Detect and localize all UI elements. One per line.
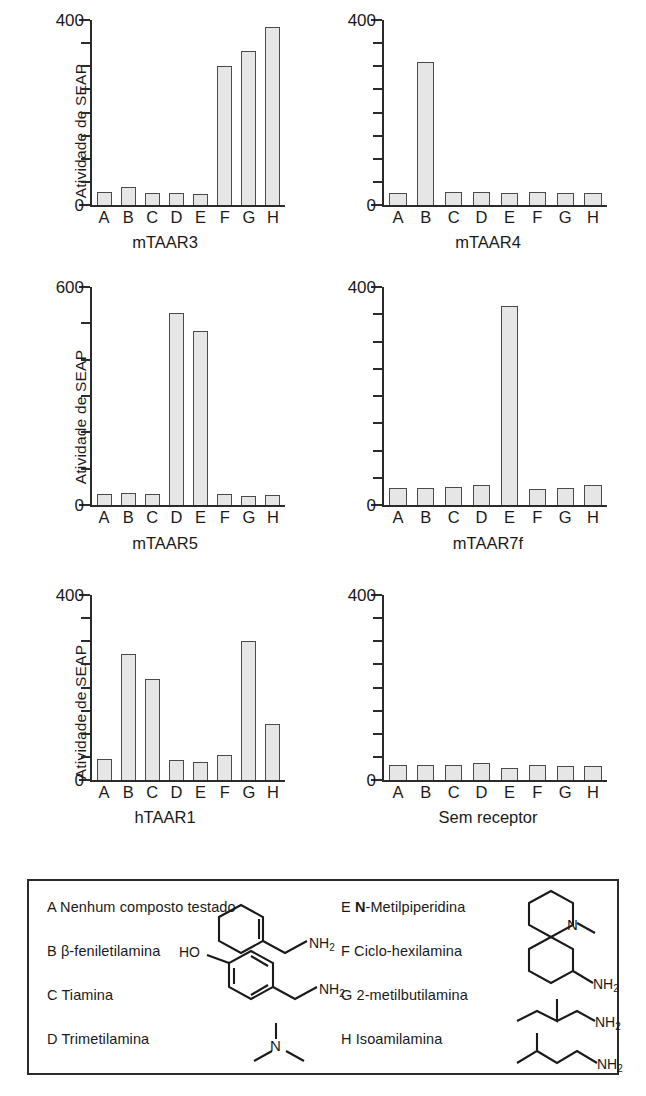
x-axis-line [382,505,607,507]
bar-h [265,724,280,780]
bar-g [557,766,574,780]
x-axis-line [382,205,607,207]
y-tick [373,42,382,44]
y-tick [373,450,382,452]
bar-slot [384,287,412,505]
bar-slot [440,595,468,780]
bar-g [241,51,256,205]
x-tick-label: D [164,208,188,227]
legend-label-c: C Tiamina [47,987,113,1003]
legend-item-a: A Nenhum composto testado [47,899,323,943]
chart-panel-mtaar7f: 0400 ABCDEFGH mTAAR7f [330,262,646,572]
y-tick-label: 0 [367,497,376,514]
y-tick [373,135,382,137]
x-tick-label: D [164,783,188,802]
bar-d [473,763,490,780]
bar-c [145,494,160,505]
x-tick-label: B [116,783,140,802]
bar-c [145,679,160,780]
legend-column-right: E N-Metilpiperidina F Ciclo-hexilamina G… [323,881,617,1075]
y-tick [81,158,90,160]
x-tick-label: G [237,783,261,802]
bar-g [241,641,256,780]
bar-a [97,192,112,205]
legend-label-d: D Trimetilamina [47,1031,149,1047]
legend-item-c: C Tiamina [47,987,323,1031]
bar-f [529,192,546,205]
bar-e [193,194,208,205]
bar-slot [189,595,213,780]
panel-title-sem-receptor: Sem receptor [330,808,646,827]
bar-slot [116,20,140,205]
x-tick-label: C [140,783,164,802]
y-tick [81,88,90,90]
x-tick-label: A [384,783,412,802]
panel-title-mtaar4: mTAAR4 [330,233,646,252]
y-tick [373,65,382,67]
y-tick [81,687,90,689]
x-tick-label: H [261,208,285,227]
x-tick-label: E [496,208,524,227]
x-tick-label: E [189,208,213,227]
bar-slot [579,595,607,780]
bar-series [92,20,285,205]
y-tick [373,663,382,665]
bar-slot [261,20,285,205]
plot-area: 0400 ABCDEFGH [382,595,607,780]
x-tick-label: B [412,208,440,227]
y-tick [81,112,90,114]
legend-label-f: F Ciclo-hexilamina [341,943,462,959]
legend-item-g: G 2-metilbutilamina [341,987,617,1031]
legend-label-h: H Isoamilamina [341,1031,442,1047]
y-tick-label: 400 [56,12,84,29]
y-tick [81,733,90,735]
x-tick-label: C [140,508,164,527]
x-tick-label: E [496,783,524,802]
bar-a [97,759,112,780]
bar-a [389,488,406,505]
y-tick [373,756,382,758]
x-tick-label: A [92,208,116,227]
bar-c [445,765,462,780]
chart-panel-grid: Atividade de SEAP 0400 ABCDEFGH mTAAR3 0… [0,0,646,852]
bar-slot [412,595,440,780]
y-tick [373,88,382,90]
bar-d [169,760,184,780]
x-tick-label: F [213,508,237,527]
x-tick-label: F [213,783,237,802]
y-tick [373,181,382,183]
y-tick [81,322,90,324]
x-tick-label: G [237,508,261,527]
legend-label-e: E N-Metilpiperidina [341,899,465,915]
y-tick [373,733,382,735]
bar-b [417,488,434,505]
y-tick [81,181,90,183]
y-tick-label: 400 [348,12,376,29]
bar-slot [468,595,496,780]
y-tick-label: 600 [56,279,84,296]
bar-slot [116,287,140,505]
y-tick-label: 400 [348,587,376,604]
legend-item-e: E N-Metilpiperidina [341,899,617,943]
x-tick-label: D [468,783,496,802]
bar-slot [496,20,524,205]
x-axis-labels: ABCDEFGH [384,783,607,802]
x-tick-label: B [116,508,140,527]
legend-item-b: B β-feniletilamina [47,943,323,987]
bar-h [584,766,601,780]
x-tick-label: E [189,783,213,802]
chart-panel-mtaar5: Atividade de SEAP 0600 ABCDEFGH mTAAR5 [0,262,330,572]
bar-h [584,193,601,205]
legend-column-left: A Nenhum composto testado B β-feniletila… [29,881,323,1075]
x-tick-label: A [92,508,116,527]
bar-c [145,193,160,205]
bar-slot [496,287,524,505]
bar-slot [92,287,116,505]
bar-e [501,193,518,205]
x-tick-label: F [523,508,551,527]
bar-slot [579,20,607,205]
bar-slot [237,595,261,780]
bar-f [529,489,546,505]
bar-a [97,494,112,505]
y-tick [373,687,382,689]
